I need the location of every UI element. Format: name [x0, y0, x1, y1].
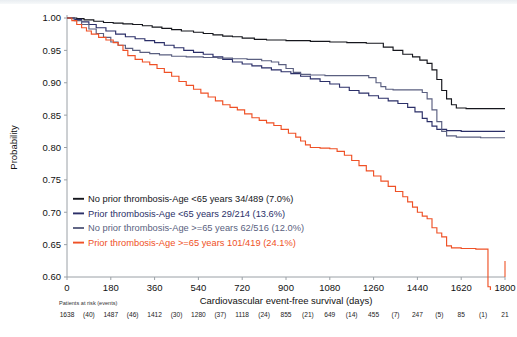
at-risk-events-8: (5) — [435, 311, 443, 319]
x-tick-label: 0 — [64, 282, 69, 293]
survival-curve-figure: 1.000.950.900.850.800.750.700.650.600180… — [0, 0, 517, 337]
y-tick-label: 0.80 — [43, 142, 62, 153]
x-tick-label: 180 — [103, 282, 119, 293]
survival-curve-3 — [67, 18, 490, 290]
at-risk-events-5: (21) — [302, 311, 314, 319]
y-tick-label: 0.85 — [43, 110, 62, 121]
legend-label-0: No prior thrombosis-Age <65 years 34/489… — [88, 194, 293, 204]
legend-label-2: No prior thrombosis-Age >=65 years 62/51… — [88, 223, 304, 233]
x-tick-label: 1620 — [451, 282, 472, 293]
at-risk-events-7: (7) — [391, 311, 399, 319]
at-risk-count-4: 1118 — [235, 311, 249, 318]
at-risk-count-5: 855 — [280, 311, 291, 318]
at-risk-count-8: 247 — [412, 311, 423, 318]
y-tick-label: 0.65 — [43, 239, 62, 250]
x-tick-label: 360 — [147, 282, 163, 293]
survival-curve-1 — [67, 18, 505, 131]
at-risk-count-2: 1412 — [147, 311, 162, 318]
x-axis-title: Cardiovascular event-free survival (days… — [200, 295, 373, 306]
y-tick-label: 0.60 — [43, 271, 62, 282]
at-risk-header: Patients at risk (events) — [59, 300, 118, 306]
at-risk-count-3: 1280 — [191, 311, 206, 318]
at-risk-events-3: (37) — [214, 311, 226, 319]
y-tick-label: 0.95 — [43, 45, 62, 56]
x-tick-label: 900 — [278, 282, 294, 293]
survival-curve-2 — [67, 18, 505, 138]
x-tick-label: 1800 — [494, 282, 515, 293]
plot-canvas: 1.000.950.900.850.800.750.700.650.600180… — [0, 0, 517, 337]
survival-curve-0 — [67, 18, 505, 109]
at-risk-count-7: 455 — [368, 311, 379, 318]
y-tick-label: 0.70 — [43, 207, 62, 218]
at-risk-count-10: 21 — [501, 311, 509, 318]
x-tick-label: 720 — [234, 282, 250, 293]
y-tick-label: 0.90 — [43, 77, 62, 88]
legend-label-1: Prior thrombosis-Age <65 years 29/214 (1… — [88, 209, 285, 219]
at-risk-events-1: (46) — [127, 311, 139, 319]
y-tick-label: 1.00 — [43, 12, 62, 23]
at-risk-events-4: (24) — [258, 311, 270, 319]
y-axis-title: Probability — [8, 125, 19, 170]
x-tick-label: 1080 — [319, 282, 340, 293]
at-risk-events-0: (40) — [83, 311, 95, 319]
legend-label-3: Prior thrombosis-Age >=65 years 101/419 … — [88, 238, 296, 248]
x-tick-label: 1440 — [407, 282, 428, 293]
at-risk-count-6: 649 — [324, 311, 335, 318]
x-tick-label: 1260 — [363, 282, 384, 293]
at-risk-count-1: 1487 — [103, 311, 118, 318]
at-risk-events-2: (30) — [171, 311, 183, 319]
at-risk-events-6: (14) — [346, 311, 358, 319]
at-risk-count-9: 85 — [458, 311, 466, 318]
at-risk-count-0: 1638 — [60, 311, 75, 318]
at-risk-events-9: (1) — [479, 311, 487, 319]
x-tick-label: 540 — [190, 282, 206, 293]
y-tick-label: 0.75 — [43, 174, 62, 185]
